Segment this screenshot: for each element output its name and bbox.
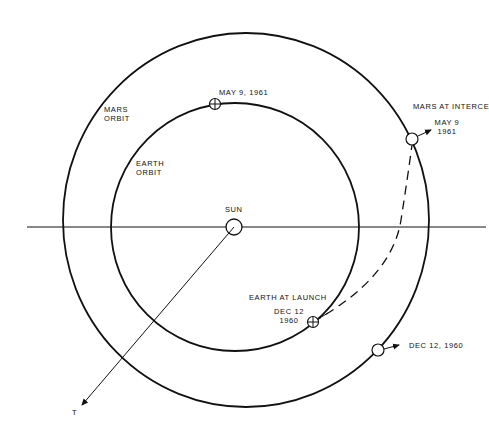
- earth-launch-symbol-icon: [308, 317, 319, 328]
- mars-intercept-planet-icon: [406, 133, 418, 145]
- mars-orbit-label-line1: MARS: [104, 105, 128, 114]
- mars-dec-motion-arrow: [384, 345, 399, 349]
- earth-symbol-icon: [210, 99, 221, 110]
- transfer-trajectory: [313, 145, 412, 322]
- earth-launch-date-line1: DEC 12: [272, 307, 306, 316]
- mars-dec-planet-icon: [372, 344, 384, 356]
- sun-label: SUN: [225, 205, 243, 214]
- earth-launch-date-line2: 1960: [272, 316, 306, 325]
- mars-intercept-date-line1: MAY 9: [432, 118, 462, 127]
- earth-orbit-label-line2: ORBIT: [136, 168, 162, 177]
- earth-may-date-label: MAY 9, 1961: [219, 88, 268, 97]
- earth-orbit-label-line1: EARTH: [136, 159, 164, 168]
- mars-orbit-label-line2: ORBIT: [104, 114, 130, 123]
- mars-dec-date-label: DEC 12, 1960: [409, 341, 463, 350]
- mars-intercept-title: MARS AT INTERCE: [413, 102, 489, 111]
- t-axis-label: T: [72, 408, 77, 417]
- mars-intercept-date-line2: 1961: [432, 127, 462, 136]
- earth-launch-title: EARTH AT LAUNCH: [249, 293, 327, 302]
- mars-intercept-motion-arrow: [418, 130, 431, 136]
- t-axis-arrow: [82, 227, 234, 405]
